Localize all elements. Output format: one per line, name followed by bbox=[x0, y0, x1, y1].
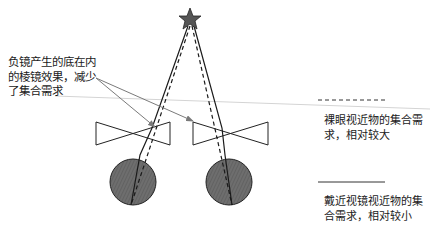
legend-dashed-line1: 裸眼视近物的集合需 bbox=[324, 114, 423, 129]
annotation-line: 负镜产生的底在内 bbox=[8, 55, 96, 70]
right-concave-lens bbox=[193, 122, 268, 145]
annotation-text: 负镜产生的底在内 的棱镜效果，减少 了集合需求 bbox=[8, 55, 96, 99]
left-eye bbox=[110, 159, 156, 205]
left-concave-lens bbox=[96, 122, 170, 145]
star-icon bbox=[179, 8, 201, 29]
legend-solid-line1: 戴近视镜视近物的集 bbox=[324, 195, 423, 210]
annotation-arrow-left bbox=[96, 78, 155, 127]
legend-solid-label: 戴近视镜视近物的集 合需求，相对较小 bbox=[324, 195, 423, 224]
annotation-line: 的棱镜效果，减少 bbox=[8, 70, 96, 85]
annotation-arrow-right bbox=[96, 78, 193, 121]
legend-dashed-line2: 求，相对较大 bbox=[324, 129, 423, 144]
legend-dashed-label: 裸眼视近物的集合需 求，相对较大 bbox=[324, 114, 423, 143]
guide-line bbox=[55, 96, 430, 109]
annotation-line: 了集合需求 bbox=[8, 84, 96, 99]
legend-solid-line2: 合需求，相对较小 bbox=[324, 210, 423, 225]
